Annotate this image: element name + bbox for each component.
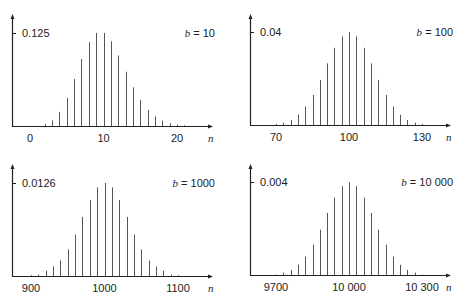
x-tick-label: 20	[171, 132, 183, 144]
x-tick-label: 100	[340, 131, 358, 143]
y-axis-arrow-icon	[11, 164, 15, 169]
x-axis-label: n	[446, 131, 452, 143]
parameter-label: b = 10 000	[401, 176, 453, 188]
parameter-label: b = 100	[417, 26, 453, 38]
bars	[32, 183, 179, 276]
x-axis-arrow-icon	[446, 274, 451, 278]
y-axis-arrow-icon	[11, 14, 15, 19]
poisson-chart-b10000: 0.004b = 10 000970010 00010 300n	[238, 150, 459, 301]
y-axis-arrow-icon	[249, 14, 253, 19]
x-tick-label: 1100	[166, 282, 190, 294]
chart-panel-b10: 0.125b = 1001020n	[0, 0, 229, 150]
x-tick-label: 70	[270, 131, 282, 143]
x-axis-arrow-icon	[208, 275, 213, 279]
y-tick-label: 0.125	[22, 27, 50, 39]
poisson-chart-b100: 0.04b = 10070100130n	[238, 0, 459, 150]
x-tick-label: 10 000	[332, 281, 366, 293]
x-tick-label: 0	[27, 132, 33, 144]
y-tick-label: 0.04	[260, 26, 281, 38]
poisson-chart-b1000: 0.0126b = 100090010001100n	[0, 150, 229, 301]
chart-panel-b100: 0.04b = 10070100130n	[238, 0, 459, 150]
x-axis-arrow-icon	[446, 124, 451, 128]
x-axis-label: n	[446, 281, 452, 293]
bars	[277, 182, 423, 275]
x-tick-label: 9700	[264, 281, 288, 293]
bars	[46, 33, 185, 126]
y-tick-label: 0.0126	[22, 177, 56, 189]
x-axis-label: n	[208, 132, 214, 144]
x-tick-label: 10	[97, 132, 109, 144]
parameter-label: b = 1000	[172, 177, 215, 189]
chart-panel-b1000: 0.0126b = 100090010001100n	[0, 150, 229, 300]
x-tick-label: 10 300	[405, 281, 439, 293]
y-tick-label: 0.004	[260, 176, 288, 188]
x-tick-label: 130	[413, 131, 431, 143]
bars	[277, 32, 423, 125]
x-axis-arrow-icon	[208, 125, 213, 129]
x-tick-label: 1000	[92, 282, 116, 294]
x-tick-label: 900	[22, 282, 40, 294]
x-axis-label: n	[208, 282, 214, 294]
y-axis-arrow-icon	[249, 164, 253, 169]
poisson-chart-b10: 0.125b = 1001020n	[0, 0, 229, 150]
chart-panel-b10000: 0.004b = 10 000970010 00010 300n	[238, 150, 459, 300]
parameter-label: b = 10	[185, 27, 215, 39]
